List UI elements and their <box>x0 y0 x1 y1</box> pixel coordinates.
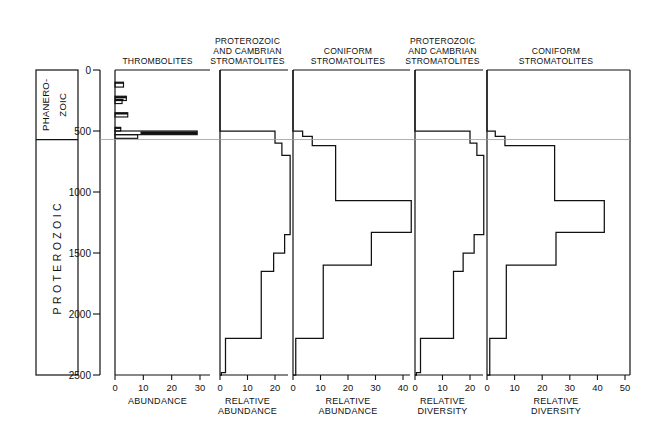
x-axis-tick-label: 30 <box>195 382 205 393</box>
figure-background <box>0 0 654 442</box>
figure-container: PHANERO-ZOICPROTEROZOIC 0500100015002000… <box>0 0 654 442</box>
panel-title-line: THROMBOLITES <box>122 56 192 66</box>
x-axis-tick-label: 10 <box>509 382 519 393</box>
x-axis-tick-label: 20 <box>343 382 353 393</box>
x-axis-label-line: ABUNDANCE <box>128 396 187 406</box>
x-axis-tick-label: 10 <box>315 382 325 393</box>
era-label-phanerozoic-line2: ZOIC <box>57 93 68 117</box>
panel-title-line: AND CAMBRIAN <box>408 46 476 56</box>
x-axis-tick-label: 10 <box>242 382 252 393</box>
era-label-proterozoic: PROTEROZOIC <box>51 200 63 314</box>
x-axis-tick-label: 0 <box>112 382 117 393</box>
panel-title-line: STROMATOLITES <box>405 56 479 66</box>
x-axis-tick-label: 50 <box>620 382 630 393</box>
panel-title-line: STROMATOLITES <box>210 56 284 66</box>
abundance-bar-fill <box>115 113 128 115</box>
x-axis-label-line: RELATIVE <box>225 396 270 406</box>
x-axis-tick-label: 0 <box>484 382 489 393</box>
y-axis-tick-label: 0 <box>85 65 91 76</box>
panel-title-line: AND CAMBRIAN <box>213 46 281 56</box>
y-axis-tick-label: 500 <box>74 126 91 137</box>
era-label-phanerozoic-line1: PHANERO- <box>40 79 51 131</box>
x-axis-tick-label: 0 <box>412 382 417 393</box>
x-axis-tick-label: 10 <box>138 382 148 393</box>
abundance-bar-fill <box>115 127 121 129</box>
x-axis-label-line: DIVERSITY <box>417 406 467 416</box>
x-axis-label-line: RELATIVE <box>325 396 370 406</box>
panel-title-line: CONIFORM <box>532 46 580 56</box>
x-axis-label-line: ABUNDANCE <box>218 406 277 416</box>
x-axis-tick-label: 10 <box>437 382 447 393</box>
panel-title-line: STROMATOLITES <box>519 56 593 66</box>
panel-title-line: PROTEROZOIC <box>410 36 475 46</box>
x-axis-tick-label: 20 <box>270 382 280 393</box>
x-axis-label-line: RELATIVE <box>420 396 465 406</box>
x-axis-tick-label: 20 <box>465 382 475 393</box>
y-axis-tick-label: 2500 <box>69 370 92 381</box>
x-axis-label-line: DIVERSITY <box>531 406 581 416</box>
x-axis-tick-label: 20 <box>537 382 547 393</box>
stromatolite-abundance-diversity-figure: PHANERO-ZOICPROTEROZOIC 0500100015002000… <box>0 0 654 442</box>
abundance-spike-fill <box>141 131 198 134</box>
panel-title-line: PROTEROZOIC <box>215 36 280 46</box>
y-axis-tick-label: 2000 <box>69 309 92 320</box>
x-axis-tick-label: 30 <box>565 382 575 393</box>
x-axis-tick-label: 40 <box>398 382 408 393</box>
x-axis-label-line: ABUNDANCE <box>318 406 377 416</box>
x-axis-label-line: RELATIVE <box>533 396 578 406</box>
panel-title-line: CONIFORM <box>324 46 372 56</box>
x-axis-tick-label: 20 <box>166 382 176 393</box>
panel-title-line: STROMATOLITES <box>311 56 385 66</box>
x-axis-tick-label: 0 <box>217 382 222 393</box>
x-axis-tick-label: 40 <box>592 382 602 393</box>
abundance-bar-fill <box>115 99 124 101</box>
abundance-bar-fill <box>115 82 124 84</box>
x-axis-tick-label: 30 <box>370 382 380 393</box>
x-axis-tick-label: 0 <box>290 382 295 393</box>
y-axis-tick-label: 1000 <box>69 187 92 198</box>
abundance-bar-fill <box>115 96 127 98</box>
y-axis-tick-label: 1500 <box>69 248 92 259</box>
